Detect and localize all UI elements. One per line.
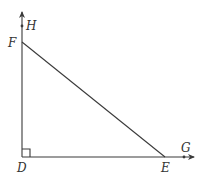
geometry-diagram: H F D E G bbox=[0, 0, 209, 179]
label-d: D bbox=[16, 161, 27, 175]
label-f: F bbox=[7, 36, 17, 50]
label-e: E bbox=[160, 161, 170, 175]
label-h: H bbox=[25, 19, 37, 33]
point-h-dot bbox=[21, 25, 24, 28]
point-g-dot bbox=[183, 156, 186, 159]
label-g: G bbox=[181, 141, 191, 155]
segment-fe bbox=[22, 42, 165, 157]
right-angle-marker bbox=[22, 149, 30, 157]
